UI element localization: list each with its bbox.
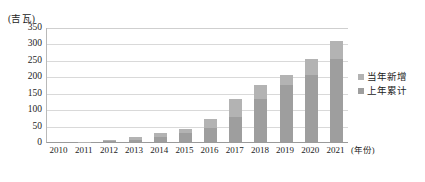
bar-segment-current-year bbox=[305, 59, 318, 75]
plot-area bbox=[46, 28, 348, 143]
x-axis-tick-label: 2015 bbox=[175, 145, 193, 156]
bar-column bbox=[154, 133, 167, 142]
x-axis-tick-label: 2018 bbox=[251, 145, 269, 156]
bar-column bbox=[330, 41, 343, 142]
bar-segment-current-year bbox=[280, 75, 293, 85]
legend-label: 上年累计 bbox=[367, 86, 407, 96]
x-axis-tick-label: 2012 bbox=[100, 145, 118, 156]
x-axis-title: (年份) bbox=[351, 145, 375, 156]
bar-column bbox=[229, 99, 242, 142]
bar-segment-prior-cumulative bbox=[154, 137, 167, 142]
chart-container: (吉瓦) 050100150200250300350 2010201120122… bbox=[0, 0, 425, 182]
bar-segment-current-year bbox=[330, 41, 343, 59]
x-axis-tick-label: 2016 bbox=[201, 145, 219, 156]
bar-series-group bbox=[47, 28, 348, 142]
x-axis-tick-label: 2019 bbox=[276, 145, 294, 156]
y-axis-tick-label: 300 bbox=[2, 40, 42, 50]
bar-segment-prior-cumulative bbox=[103, 141, 116, 142]
x-axis-tick-label: 2020 bbox=[301, 145, 319, 156]
bar-column bbox=[204, 119, 217, 142]
bar-segment-current-year bbox=[204, 119, 217, 128]
x-axis-tick-label: 2017 bbox=[226, 145, 244, 156]
legend-swatch-icon bbox=[358, 88, 364, 94]
bar-column bbox=[179, 129, 192, 142]
bar-column bbox=[129, 137, 142, 142]
bar-segment-prior-cumulative bbox=[129, 140, 142, 142]
x-axis-tick-label: 2014 bbox=[150, 145, 168, 156]
bar-column bbox=[254, 85, 267, 142]
y-axis-tick-label: 250 bbox=[2, 56, 42, 66]
y-axis-tick-label: 150 bbox=[2, 89, 42, 99]
bar-segment-prior-cumulative bbox=[305, 75, 318, 142]
y-axis-tick-label: 200 bbox=[2, 73, 42, 83]
x-axis-tick-label: 2013 bbox=[125, 145, 143, 156]
bar-column bbox=[305, 59, 318, 142]
bar-segment-prior-cumulative bbox=[204, 128, 217, 142]
chart-legend: 当年新增上年累计 bbox=[358, 72, 407, 96]
y-axis: 050100150200250300350 bbox=[0, 28, 42, 143]
x-axis-tick-label: 2011 bbox=[75, 145, 93, 156]
bar-column bbox=[280, 75, 293, 142]
legend-item[interactable]: 当年新增 bbox=[358, 72, 407, 82]
x-axis-tick-label: 2021 bbox=[326, 145, 344, 156]
legend-item[interactable]: 上年累计 bbox=[358, 86, 407, 96]
bar-segment-prior-cumulative bbox=[330, 59, 343, 142]
x-axis-tick-label: 2010 bbox=[50, 145, 68, 156]
bar-column bbox=[103, 140, 116, 142]
y-axis-tick-label: 350 bbox=[2, 23, 42, 33]
bar-segment-prior-cumulative bbox=[280, 85, 293, 142]
y-axis-tick-label: 50 bbox=[2, 122, 42, 132]
bar-segment-prior-cumulative bbox=[229, 117, 242, 142]
bar-segment-current-year bbox=[254, 85, 267, 99]
bar-segment-prior-cumulative bbox=[254, 99, 267, 142]
bar-segment-prior-cumulative bbox=[179, 133, 192, 142]
y-axis-tick-label: 0 bbox=[2, 138, 42, 148]
legend-label: 当年新增 bbox=[367, 72, 407, 82]
bar-segment-current-year bbox=[229, 99, 242, 116]
x-axis: 2010201120122013201420152016201720182019… bbox=[46, 145, 348, 161]
y-axis-tick-label: 100 bbox=[2, 105, 42, 115]
legend-swatch-icon bbox=[358, 74, 364, 80]
